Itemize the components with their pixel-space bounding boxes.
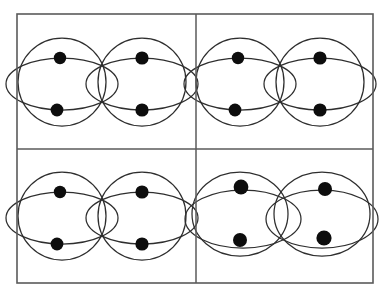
panel-top-left-dot-1: [54, 52, 66, 64]
panel-top-left-dot-2: [135, 51, 148, 64]
figure-background: [0, 0, 390, 295]
geometry-diagram: [0, 0, 390, 295]
panel-bottom-right-dot-1: [234, 180, 249, 195]
panel-top-left-dot-3: [51, 104, 64, 117]
panel-top-right-dot-1: [232, 52, 244, 64]
panel-bottom-right-dot-3: [233, 233, 247, 247]
panel-top-left-dot-4: [135, 103, 148, 116]
panel-bottom-left-dot-1: [54, 186, 66, 198]
panel-bottom-left-dot-4: [135, 237, 148, 250]
panel-top-right-dot-2: [313, 51, 326, 64]
panel-bottom-right-dot-4: [316, 230, 331, 245]
panel-bottom-left-dot-3: [51, 238, 64, 251]
panel-top-right-dot-4: [313, 103, 326, 116]
panel-bottom-right-dot-2: [318, 182, 332, 196]
panel-top-right-dot-3: [229, 104, 242, 117]
panel-bottom-left-dot-2: [135, 185, 148, 198]
figure-container: [0, 0, 390, 295]
